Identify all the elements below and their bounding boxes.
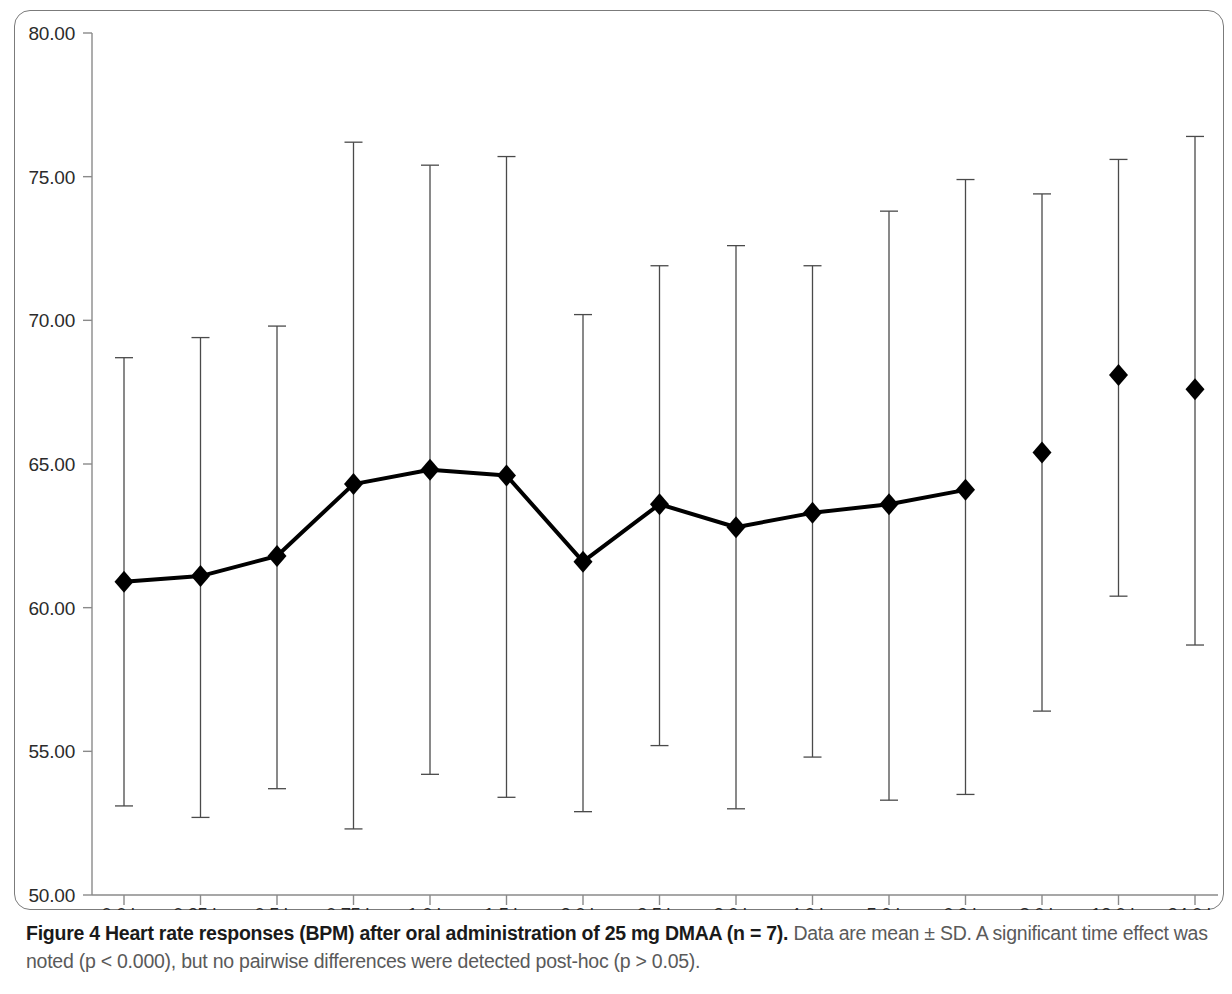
x-tick-label: 8.0 hr	[1020, 904, 1065, 910]
y-tick-label: 75.00	[28, 167, 75, 188]
data-point-marker	[1033, 442, 1052, 464]
series-polyline	[124, 470, 966, 582]
data-point-marker	[191, 565, 210, 587]
x-tick-label: 0.25 hr	[173, 904, 228, 910]
data-point-marker	[421, 459, 440, 481]
x-tick-label: 6.0 hr	[943, 904, 988, 910]
series-line	[124, 470, 966, 582]
x-tick-label: 0.0 hr	[102, 904, 147, 910]
data-point-marker	[1109, 364, 1128, 386]
data-point-marker	[650, 493, 669, 515]
caption-title: Figure 4 Heart rate responses (BPM) afte…	[26, 922, 788, 944]
data-point-marker	[727, 516, 746, 538]
data-point-marker	[880, 493, 899, 515]
x-tick-label: 3.0 hr	[714, 904, 759, 910]
x-tick-label: 1.5 hr	[484, 904, 529, 910]
error-bars	[115, 136, 1204, 828]
figure-root: 80.0075.0070.0065.0060.0055.0050.00 0.0 …	[0, 0, 1232, 994]
data-point-marker	[803, 502, 822, 524]
y-tick-label: 65.00	[28, 454, 75, 475]
y-tick-label: 60.00	[28, 598, 75, 619]
data-point-marker	[1186, 378, 1205, 400]
x-tick-label: 0.5 hr	[255, 904, 300, 910]
y-axis: 80.0075.0070.0065.0060.0055.0050.00	[28, 23, 92, 906]
data-point-marker	[956, 479, 975, 501]
y-tick-label: 50.00	[28, 885, 75, 906]
x-axis: 0.0 hr0.25 hr0.5 hr0.75 hr1.0 hr1.5 hr2.…	[92, 895, 1223, 910]
chart-plot-area: 80.0075.0070.0065.0060.0055.0050.00 0.0 …	[0, 0, 1232, 910]
heart-rate-line-chart: 80.0075.0070.0065.0060.0055.0050.00 0.0 …	[0, 0, 1232, 910]
x-tick-label: 2.5 hr	[637, 904, 682, 910]
x-tick-label: 2.0 hr	[561, 904, 606, 910]
x-tick-label: 12.0 hr	[1091, 904, 1146, 910]
x-tick-label: 0.75 hr	[326, 904, 381, 910]
x-tick-label: 4.0 hr	[790, 904, 835, 910]
y-tick-label: 55.00	[28, 741, 75, 762]
data-point-marker	[115, 571, 134, 593]
x-tick-label: 24.0 hr	[1168, 904, 1223, 910]
x-tick-label: 1.0 hr	[408, 904, 453, 910]
figure-caption: Figure 4 Heart rate responses (BPM) afte…	[26, 919, 1218, 975]
y-tick-label: 70.00	[28, 310, 75, 331]
y-tick-label: 80.00	[28, 23, 75, 44]
x-tick-label: 5.0 hr	[867, 904, 912, 910]
